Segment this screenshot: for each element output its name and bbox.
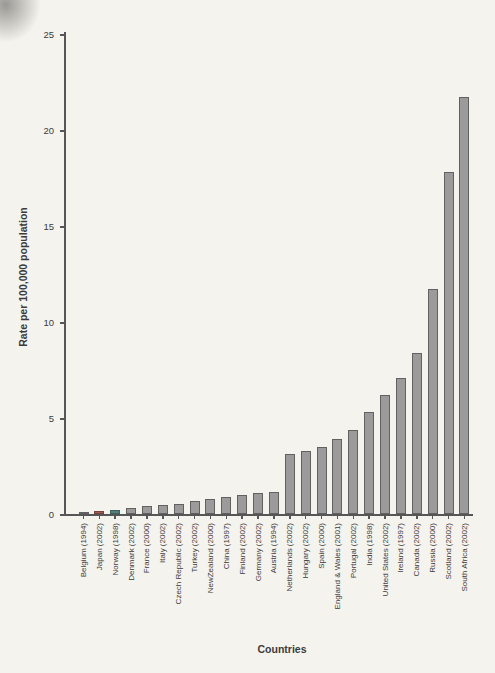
bar: [94, 511, 104, 514]
chart-figure: 0510152025Belgium (1994)Japan (2002)Norw…: [0, 0, 495, 673]
x-tick-mark: [162, 514, 164, 519]
bar: [380, 395, 390, 514]
x-tick-label: United States (2002): [380, 523, 391, 628]
bar: [269, 492, 279, 514]
x-tick-mark: [305, 514, 307, 519]
bar: [253, 493, 263, 514]
y-tick-mark: [60, 130, 64, 132]
x-tick-mark: [448, 514, 450, 519]
bar: [205, 499, 215, 514]
bar: [412, 353, 422, 514]
x-tick-mark: [321, 514, 323, 519]
x-tick-label: Portugal (2002): [348, 523, 359, 628]
x-tick-label: India (1998): [364, 523, 375, 628]
x-tick-label: England & Wales (2001): [332, 523, 343, 628]
x-tick-label: Canada (2002): [411, 523, 422, 628]
bar: [79, 512, 89, 514]
bar: [332, 439, 342, 514]
y-tick-label: 25: [24, 29, 54, 40]
x-tick-label: Norway (1998): [110, 523, 121, 628]
x-tick-mark: [416, 514, 418, 519]
x-tick-mark: [337, 514, 339, 519]
x-tick-mark: [114, 514, 116, 519]
y-axis: [64, 32, 66, 516]
bar: [396, 378, 406, 514]
bar: [190, 501, 200, 514]
x-tick-mark: [83, 514, 85, 519]
bar: [237, 495, 247, 514]
x-tick-label: Turkey (2002): [189, 523, 200, 628]
x-tick-label: Belgium (1994): [78, 523, 89, 628]
x-axis: [64, 514, 473, 516]
bar: [459, 97, 469, 514]
x-tick-label: Austria (1994): [268, 523, 279, 628]
y-tick-mark: [60, 322, 64, 324]
x-tick-mark: [130, 514, 132, 519]
x-tick-label: Hungary (2002): [300, 523, 311, 628]
x-tick-mark: [353, 514, 355, 519]
y-tick-mark: [60, 514, 64, 516]
x-tick-mark: [257, 514, 259, 519]
x-tick-label: Czech Republic (2002): [173, 523, 184, 628]
bar: [444, 172, 454, 514]
x-tick-mark: [273, 514, 275, 519]
y-tick-label: 5: [24, 413, 54, 424]
bar: [364, 412, 374, 514]
x-tick-label: Russia (2000): [427, 523, 438, 628]
x-tick-mark: [464, 514, 466, 519]
x-tick-mark: [432, 514, 434, 519]
x-tick-mark: [210, 514, 212, 519]
x-tick-label: Finland (2002): [237, 523, 248, 628]
x-tick-label: Ireland (1997): [395, 523, 406, 628]
x-tick-mark: [384, 514, 386, 519]
bar: [174, 504, 184, 514]
x-tick-mark: [178, 514, 180, 519]
x-axis-title: Countries: [257, 643, 306, 655]
x-tick-mark: [99, 514, 101, 519]
x-tick-label: South Africa (2002): [459, 523, 470, 628]
x-tick-label: Scotland (2002): [443, 523, 454, 628]
bar: [110, 510, 120, 514]
x-tick-mark: [146, 514, 148, 519]
bar: [428, 289, 438, 514]
plot-area: 0510152025Belgium (1994)Japan (2002)Norw…: [0, 0, 495, 673]
x-tick-label: France (2000): [141, 523, 152, 628]
x-tick-mark: [241, 514, 243, 519]
x-tick-label: Spain (2000): [316, 523, 327, 628]
x-tick-label: China (1997): [221, 523, 232, 628]
bar: [348, 430, 358, 514]
y-axis-title: Rate per 100,000 population: [17, 207, 29, 346]
y-tick-mark: [60, 226, 64, 228]
x-tick-mark: [194, 514, 196, 519]
x-tick-label: Netherlands (2002): [284, 523, 295, 628]
y-tick-label: 20: [24, 125, 54, 136]
y-tick-mark: [60, 418, 64, 420]
x-tick-label: NewZealand (2000): [205, 523, 216, 628]
x-tick-label: Japan (2002): [94, 523, 105, 628]
bar: [158, 505, 168, 514]
x-tick-mark: [226, 514, 228, 519]
x-tick-label: Denmark (2002): [126, 523, 137, 628]
bar: [126, 508, 136, 514]
bar: [221, 497, 231, 514]
y-tick-mark: [60, 34, 64, 36]
x-tick-mark: [400, 514, 402, 519]
x-tick-mark: [368, 514, 370, 519]
x-tick-label: Germany (2002): [253, 523, 264, 628]
x-tick-label: Italy (2002): [157, 523, 168, 628]
bar: [285, 454, 295, 514]
bar: [317, 447, 327, 514]
bar: [142, 506, 152, 514]
bar: [301, 451, 311, 514]
y-tick-label: 0: [24, 509, 54, 520]
x-tick-mark: [289, 514, 291, 519]
